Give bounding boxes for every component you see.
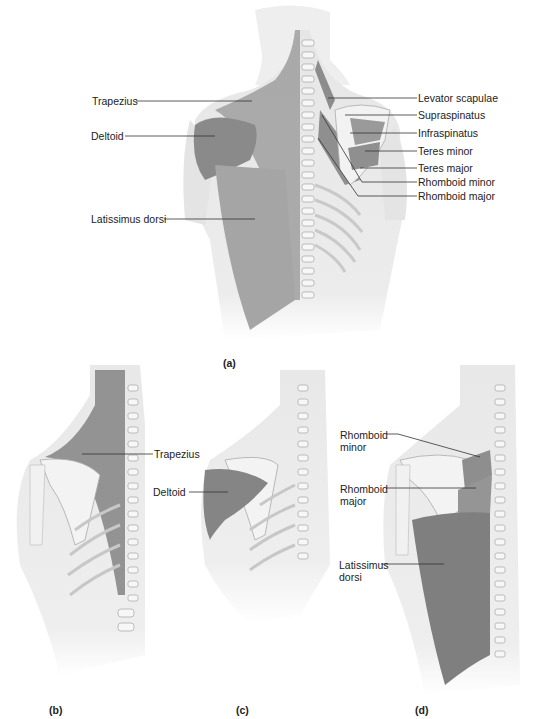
label-rhomboid-major: Rhomboid major xyxy=(418,190,495,202)
label-rhomboid-major-d: Rhomboid major xyxy=(340,483,400,507)
label-teres-minor: Teres minor xyxy=(418,145,473,157)
label-supraspinatus: Supraspinatus xyxy=(418,109,485,121)
caption-c: (c) xyxy=(236,704,249,716)
label-latissimus-dorsi: Latissimus dorsi xyxy=(91,213,166,225)
label-deltoid-c: Deltoid xyxy=(153,486,186,498)
label-teres-major: Teres major xyxy=(418,162,473,174)
caption-b: (b) xyxy=(49,704,62,716)
panel-c: Deltoid (c) xyxy=(150,365,350,719)
caption-d: (d) xyxy=(415,704,428,716)
label-latissimus-dorsi-d: Latissimus dorsi xyxy=(339,559,399,583)
label-levator-scapulae: Levator scapulae xyxy=(418,92,498,104)
panel-d-illustration xyxy=(330,365,542,719)
panel-d: Rhomboid minor Rhomboid major Latissimus… xyxy=(330,365,542,719)
label-rhomboid-minor: Rhomboid minor xyxy=(418,176,495,188)
label-rhomboid-minor-d: Rhomboid minor xyxy=(340,429,400,453)
label-infraspinatus: Infraspinatus xyxy=(418,127,478,139)
label-deltoid: Deltoid xyxy=(91,130,124,142)
label-trapezius: Trapezius xyxy=(92,95,138,107)
panel-c-illustration xyxy=(150,365,350,719)
panel-a: Trapezius Deltoid Latissimus dorsi Levat… xyxy=(0,0,542,372)
